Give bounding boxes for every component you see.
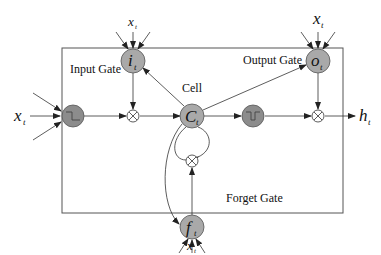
- forget-gate-label: Forget Gate: [226, 191, 283, 205]
- input-gate-x-label: x: [127, 14, 134, 29]
- output-gate-x-label: x: [312, 9, 321, 28]
- output-activation-node: [242, 105, 264, 127]
- output-gate-label: Output Gate: [243, 53, 302, 67]
- output-h-label: h: [359, 106, 368, 125]
- input-gate-node: i t: [121, 49, 145, 73]
- edge-og-in-1: [301, 32, 313, 49]
- edge-recurrent-in-2: [33, 122, 61, 140]
- input-gate-symbol: i: [128, 51, 133, 70]
- input-gate-x-subscript: t: [135, 23, 138, 31]
- edge-ig-in-3: [138, 32, 150, 49]
- lstm-diagram: i t o t C t f t x t h t x t x t x t Inpu…: [0, 0, 381, 255]
- output-h-subscript: t: [368, 117, 371, 127]
- output-gate-node: o t: [306, 49, 330, 73]
- edge-cell-to-ig: [143, 68, 184, 106]
- edge-cell-to-fg: [165, 124, 182, 224]
- cell-state-node: C t: [180, 104, 204, 128]
- cell-label: Cell: [182, 81, 203, 95]
- output-gate-x-subscript: t: [321, 20, 324, 30]
- forget-gate-x-subscript: t: [194, 247, 197, 255]
- input-activation-node: [62, 105, 84, 127]
- forget-multiply-node: [186, 155, 198, 167]
- edge-ig-in-1: [116, 32, 128, 49]
- input-multiply-node: [127, 110, 139, 122]
- input-x-subscript: t: [23, 117, 26, 127]
- output-gate-symbol: o: [311, 51, 320, 70]
- output-multiply-node: [312, 110, 324, 122]
- edge-cell-to-og: [203, 65, 306, 110]
- forget-gate-x-label: x: [186, 238, 193, 253]
- edge-og-in-3: [323, 32, 335, 49]
- edge-fg-in-3: [196, 239, 205, 253]
- forget-gate-node: f t: [180, 215, 204, 239]
- edge-recurrent-in-1: [33, 93, 61, 111]
- input-gate-label: Input Gate: [70, 62, 121, 76]
- input-x-label: x: [13, 106, 22, 125]
- edge-mult-to-cell-loop: [198, 127, 209, 157]
